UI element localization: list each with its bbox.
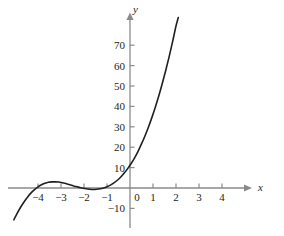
y-tick-label: 50: [114, 81, 125, 92]
y-tick-label: 60: [114, 60, 125, 71]
x-tick-label: −4: [32, 192, 44, 203]
x-tick-label: 2: [173, 192, 179, 203]
x-tick-label: −2: [78, 192, 90, 203]
y-tick-label: 70: [114, 40, 125, 51]
y-tick-label: 30: [114, 121, 125, 132]
y-tick-label: 40: [114, 101, 125, 112]
x-tick-label: 0: [134, 192, 140, 203]
x-axis-arrowhead: [244, 184, 252, 191]
x-tick-label: −3: [55, 192, 67, 203]
y-tick-label: −10: [108, 203, 125, 214]
x-tick-label: 3: [196, 192, 202, 203]
x-axis-label: x: [258, 182, 263, 193]
x-tick-label: 4: [219, 192, 225, 203]
function-graph-figure: −4−3−2−101234 −1010203040506070 x y: [0, 0, 284, 236]
x-tick-label: 1: [150, 192, 156, 203]
y-tick-label: 20: [114, 142, 125, 153]
y-axis-ticks: [130, 45, 135, 208]
y-axis-label: y: [133, 4, 138, 15]
y-tick-label: 10: [114, 162, 125, 173]
function-curve: [14, 17, 178, 219]
